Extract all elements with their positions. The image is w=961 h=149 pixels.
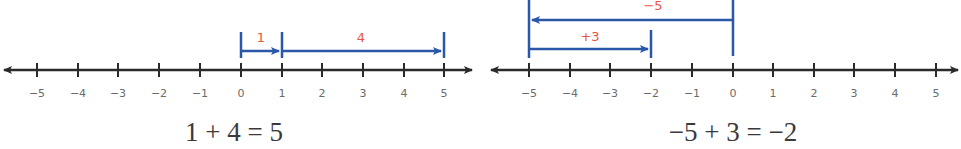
tick-label: 3 xyxy=(360,87,367,100)
tick-label: 1 xyxy=(279,87,286,100)
tick-label: 4 xyxy=(401,87,408,100)
tick-label: 5 xyxy=(933,87,940,100)
tick-label: 1 xyxy=(770,87,777,100)
equation: −5 + 3 = −2 xyxy=(669,117,797,147)
jump-label: 1 xyxy=(257,30,265,45)
jump-label: 4 xyxy=(357,30,365,45)
jump-label: +3 xyxy=(580,29,599,44)
left-number-line: −5 −4 −3 −2 −1 0 1 2 3 4 5 1 4 1 + 4 = 5 xyxy=(4,30,472,147)
tick-label: −3 xyxy=(602,87,618,100)
tick-label: 0 xyxy=(730,87,737,100)
tick-label: −5 xyxy=(29,87,45,100)
tick-label: −2 xyxy=(643,87,659,100)
tick-label: 5 xyxy=(441,87,448,100)
right-number-line: −5 −4 −3 −2 −1 0 1 2 3 4 5 −5 +3 −5 + 3 … xyxy=(491,0,958,147)
tick-labels: −5 −4 −3 −2 −1 0 1 2 3 4 5 xyxy=(29,87,448,100)
tick-label: −2 xyxy=(151,87,167,100)
tick-label: 3 xyxy=(851,87,858,100)
tick-label: 2 xyxy=(811,87,818,100)
tick-label: 0 xyxy=(238,87,245,100)
tick-label: −3 xyxy=(110,87,126,100)
jump-label: −5 xyxy=(643,0,662,13)
tick-label: −5 xyxy=(521,87,537,100)
jump-arrows xyxy=(241,32,444,58)
jump-arrows xyxy=(529,0,733,58)
tick-label: 2 xyxy=(319,87,326,100)
tick-label: −1 xyxy=(192,87,208,100)
tick-label: −1 xyxy=(684,87,700,100)
number-line-figure: −5 −4 −3 −2 −1 0 1 2 3 4 5 1 4 1 + 4 = 5 xyxy=(0,0,961,149)
equation: 1 + 4 = 5 xyxy=(185,117,283,147)
tick-label: −4 xyxy=(562,87,578,100)
tick-labels: −5 −4 −3 −2 −1 0 1 2 3 4 5 xyxy=(521,87,940,100)
tick-label: −4 xyxy=(70,87,86,100)
tick-label: 4 xyxy=(892,87,899,100)
